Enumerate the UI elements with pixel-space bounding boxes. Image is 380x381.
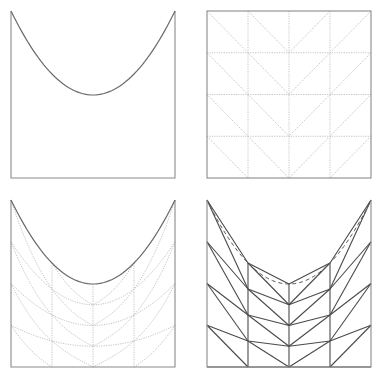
panel-parabola-domain [11, 11, 175, 178]
grid-diagonal [207, 53, 248, 95]
grid-diagonal [248, 11, 289, 53]
grid-diagonal [207, 11, 248, 53]
mesh-diagonal-edge [330, 200, 371, 289]
panel-mapped-grid [11, 200, 175, 367]
grid-diagonal [289, 136, 330, 178]
parabola-boundary [11, 200, 175, 284]
grid-diagonal [289, 11, 330, 53]
mapped-diagonal-curve [11, 284, 52, 342]
mapped-diagonal-curve [11, 325, 52, 367]
grid-diagonal [330, 95, 371, 137]
mapped-diagonal-curve [52, 289, 93, 326]
mapped-row-curve [11, 242, 175, 305]
mesh-diagonal-edge [330, 284, 371, 342]
mesh-diagonal-edge [207, 200, 248, 289]
mesh-diagonal-edge [289, 341, 330, 367]
panel-reference-grid [207, 11, 371, 178]
grid-diagonal [207, 136, 248, 178]
mapped-diagonal-curve [93, 315, 134, 346]
mapped-diagonal-curve [11, 242, 52, 315]
grid-diagonal [289, 95, 330, 137]
mapped-diagonal-curve [134, 325, 175, 367]
mesh-diagonal-edge [248, 341, 289, 367]
grid-diagonal [289, 53, 330, 95]
parabola-boundary [11, 11, 175, 95]
diagram-canvas [0, 0, 380, 381]
mapped-diagonal-curve [134, 242, 175, 315]
mapped-diagonal-curve [93, 289, 134, 326]
grid-diagonal [248, 95, 289, 137]
mapped-diagonal-curve [134, 284, 175, 342]
grid-diagonal [207, 95, 248, 137]
mapped-diagonal-curve [52, 315, 93, 346]
mesh-diagonal-edge [207, 284, 248, 342]
grid-diagonal [248, 136, 289, 178]
panel-triangulated-mesh [207, 200, 371, 367]
exact-parabola-dashed [207, 200, 371, 284]
grid-diagonal [248, 53, 289, 95]
grid-diagonal [330, 53, 371, 95]
grid-diagonal [330, 136, 371, 178]
figure [0, 0, 380, 381]
grid-diagonal [330, 11, 371, 53]
